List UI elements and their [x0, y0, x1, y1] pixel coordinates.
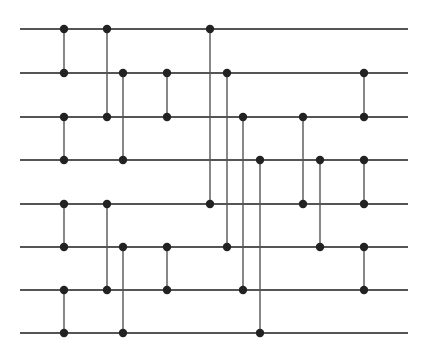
comparator-node: [360, 200, 368, 208]
comparator-node: [256, 329, 264, 337]
comparator: [60, 113, 68, 164]
comparator-node: [119, 156, 127, 164]
comparator-node: [119, 329, 127, 337]
comparator: [60, 25, 68, 77]
comparator-node: [360, 286, 368, 294]
comparator: [60, 200, 68, 251]
comparator-node: [239, 113, 247, 121]
comparator-node: [60, 25, 68, 33]
comparator-node: [119, 243, 127, 251]
comparator: [163, 69, 171, 121]
comparator: [360, 69, 368, 121]
sorting-network-diagram: [0, 0, 427, 355]
comparator-node: [60, 243, 68, 251]
comparator-node: [60, 69, 68, 77]
comparator: [60, 286, 68, 337]
comparator-node: [163, 286, 171, 294]
comparator-node: [299, 200, 307, 208]
comparator-node: [60, 113, 68, 121]
comparator-node: [103, 25, 111, 33]
comparator-node: [256, 156, 264, 164]
comparator-node: [299, 113, 307, 121]
comparator-node: [103, 113, 111, 121]
comparator-node: [223, 69, 231, 77]
wires-group: [20, 29, 408, 333]
comparator-node: [360, 69, 368, 77]
comparator-node: [239, 286, 247, 294]
comparator-node: [60, 286, 68, 294]
comparator: [360, 243, 368, 294]
comparator-node: [103, 286, 111, 294]
comparator-node: [316, 243, 324, 251]
comparator-node: [60, 156, 68, 164]
comparator: [360, 156, 368, 208]
comparator-node: [360, 113, 368, 121]
comparator-node: [163, 69, 171, 77]
comparator-node: [223, 243, 231, 251]
comparator-node: [206, 25, 214, 33]
comparator-node: [103, 200, 111, 208]
network-svg: [0, 0, 427, 355]
comparator-node: [60, 329, 68, 337]
comparator-node: [206, 200, 214, 208]
comparator-node: [119, 69, 127, 77]
comparator-node: [60, 200, 68, 208]
comparator-node: [360, 243, 368, 251]
comparator-node: [316, 156, 324, 164]
comparator-node: [360, 156, 368, 164]
comparator-node: [163, 243, 171, 251]
comparator-node: [163, 113, 171, 121]
comparator: [163, 243, 171, 294]
